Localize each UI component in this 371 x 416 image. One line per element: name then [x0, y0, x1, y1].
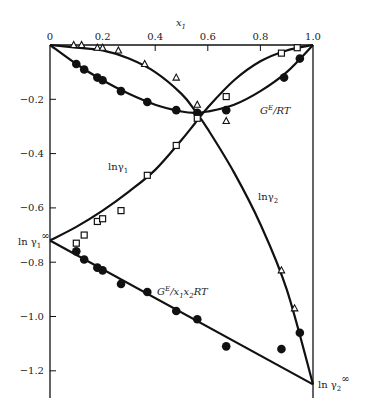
marker-filled-circle — [143, 98, 152, 107]
curve-ln-2-fit — [50, 45, 313, 384]
marker-open-square — [81, 232, 87, 238]
marker-filled-circle — [117, 280, 126, 289]
y-tick-label: −0.4 — [20, 148, 44, 159]
marker-open-triangle — [223, 118, 229, 124]
marker-filled-circle — [172, 307, 181, 316]
curve-g-e-x1x2rt-fit — [50, 240, 313, 384]
annotation-ln-gamma1-inf: ln γ1∞ — [18, 230, 50, 250]
x-tick-label: 0.2 — [95, 31, 111, 42]
marker-open-triangle — [141, 61, 147, 67]
annotation-ge-rt: GE/RT — [260, 104, 292, 116]
marker-open-square — [173, 142, 179, 148]
x-tick-label: 0.4 — [147, 31, 163, 42]
marker-open-triangle — [194, 101, 200, 107]
curve-ln-1-fit — [50, 45, 313, 240]
marker-open-triangle — [173, 74, 179, 80]
marker-filled-circle — [72, 247, 81, 256]
y-tick-label: −0.8 — [20, 257, 44, 268]
marker-open-square — [73, 240, 79, 246]
marker-open-square — [278, 50, 284, 56]
marker-filled-circle — [72, 60, 81, 69]
marker-filled-circle — [117, 87, 126, 96]
annotation-ln-gamma2-inf: ln γ2∞ — [318, 373, 350, 393]
fit-curves — [50, 45, 313, 384]
annotation-ln-gamma2: lnγ2 — [258, 191, 278, 205]
marker-filled-circle — [193, 315, 202, 324]
marker-open-square — [100, 216, 106, 222]
marker-filled-circle — [222, 106, 231, 115]
chart-canvas: x1 00.20.40.60.81.0 −0.2−0.4−0.6−0.8−1.0… — [0, 0, 371, 416]
marker-open-square — [294, 45, 300, 51]
x-tick-label: 0 — [47, 31, 53, 42]
marker-filled-circle — [80, 65, 89, 74]
annotation-ln-gamma1: lnγ1 — [108, 161, 128, 175]
y-tick-label: −0.6 — [20, 202, 44, 213]
marker-open-square — [223, 94, 229, 100]
marker-filled-circle — [80, 255, 89, 264]
marker-filled-circle — [143, 288, 152, 297]
marker-filled-circle — [98, 266, 107, 275]
x-axis-label: x1 — [176, 17, 186, 31]
marker-filled-circle — [222, 342, 231, 351]
y-tick-label: −1.0 — [20, 311, 44, 322]
annotation-ge-x1x2rt: GE/x1x2RT — [157, 285, 209, 300]
marker-filled-circle — [296, 328, 305, 337]
marker-filled-circle — [172, 106, 181, 115]
marker-open-square — [144, 172, 150, 178]
marker-filled-circle — [280, 73, 289, 82]
marker-filled-circle — [296, 54, 305, 63]
y-tick-label: −1.2 — [20, 365, 44, 376]
x-tick-label: 0.8 — [252, 31, 268, 42]
marker-open-triangle — [115, 47, 121, 53]
marker-filled-circle — [98, 76, 107, 85]
y-tick-label: −0.2 — [20, 94, 44, 105]
marker-open-square — [194, 115, 200, 121]
marker-open-square — [118, 208, 124, 214]
x-tick-label: 1.0 — [305, 31, 321, 42]
x-tick-label: 0.6 — [200, 31, 216, 42]
marker-filled-circle — [277, 345, 286, 354]
